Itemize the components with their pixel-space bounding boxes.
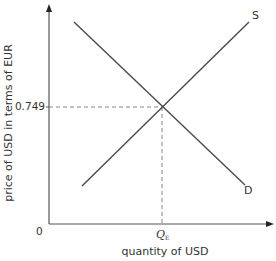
supply-curve-label: S (252, 10, 259, 21)
x-axis-label: quantity of USD (122, 246, 209, 257)
demand-curve (74, 22, 245, 185)
equilibrium-quantity-label: QE (156, 229, 169, 241)
equilibrium-quantity-subscript: E (165, 234, 169, 241)
equilibrium-quantity-symbol: Q (156, 228, 165, 241)
demand-curve-label: D (244, 185, 252, 196)
supply-demand-diagram (0, 0, 276, 261)
origin-label: 0 (36, 226, 43, 237)
y-axis-label: price of USD in terms of EUR (3, 44, 14, 202)
supply-curve (82, 22, 249, 186)
equilibrium-price-label: 0.749 (15, 101, 45, 112)
